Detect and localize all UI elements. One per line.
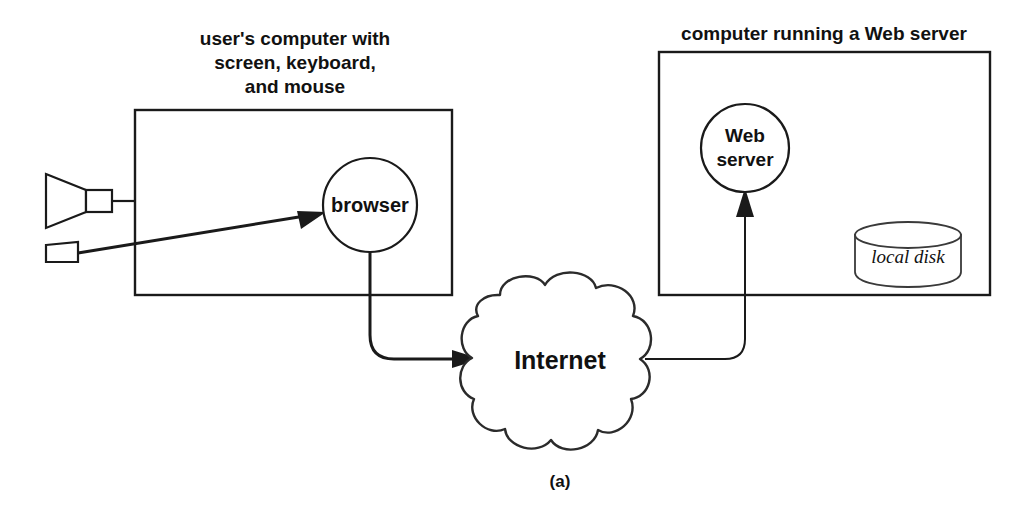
server-computer-group: computer running a Web server Web server… [645, 23, 990, 359]
client-computer-group: user's computer with screen, keyboard, a… [46, 28, 481, 368]
server-title: computer running a Web server [681, 23, 967, 44]
web-server-label-line-1: Web [725, 125, 765, 146]
mouse-icon [46, 242, 78, 262]
web-server-circle [701, 104, 789, 192]
monitor-icon [46, 174, 136, 228]
web-server-node: Web server [701, 104, 789, 192]
browser-node: browser [323, 158, 417, 252]
diagram-canvas: user's computer with screen, keyboard, a… [0, 0, 1029, 520]
figure-diagram: user's computer with screen, keyboard, a… [0, 0, 1029, 520]
client-title-line-3: and mouse [245, 76, 345, 97]
client-title-line-1: user's computer with [200, 28, 390, 49]
web-server-label-line-2: server [716, 149, 774, 170]
local-disk-icon: local disk [855, 222, 961, 287]
client-title-line-2: screen, keyboard, [214, 52, 376, 73]
mouse-to-browser-arrow [78, 211, 326, 253]
internet-cloud-group: Internet [460, 273, 651, 450]
internet-to-server-link [645, 188, 754, 359]
browser-label: browser [331, 194, 409, 216]
internet-label: Internet [514, 346, 606, 374]
local-disk-label: local disk [871, 246, 945, 267]
figure-caption: (a) [550, 472, 571, 491]
